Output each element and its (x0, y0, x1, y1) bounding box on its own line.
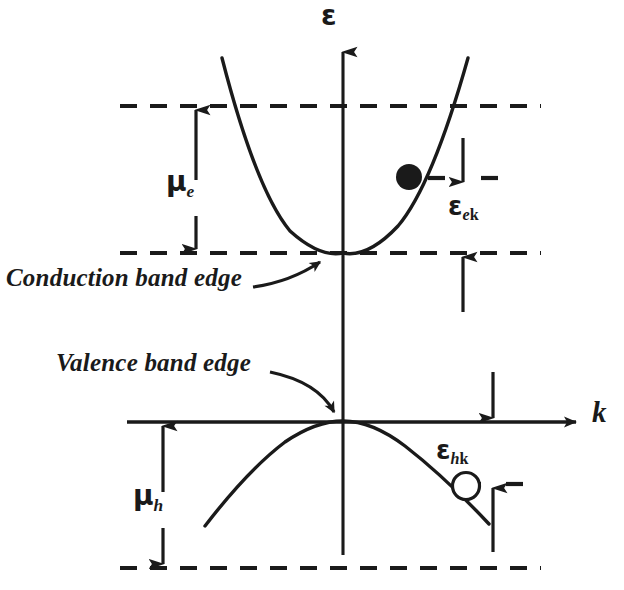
eps-ek-subscript-e: e (462, 206, 469, 223)
conduction-band-curve (222, 58, 468, 254)
mu-h-label: μh (133, 482, 163, 514)
eps-ek-label: εek (448, 193, 479, 223)
electron-marker-icon (396, 164, 422, 190)
hole-marker-icon (453, 473, 480, 500)
mu-e-label: μe (166, 168, 194, 200)
mu-h-symbol: μ (133, 479, 154, 512)
eps-hk-subscript-k: k (459, 450, 468, 467)
mu-e-symbol: μ (166, 165, 187, 198)
eps-hk-symbol: ε (436, 435, 450, 465)
valence-band-edge-caption: Valence band edge (56, 350, 251, 375)
wavevector-axis-label: k (592, 398, 607, 427)
band-diagram-figure: ε k μe μh εek εhk Conduction band edge V… (0, 0, 624, 590)
energy-axis-label: ε (321, 2, 337, 30)
mu-e-subscript: e (187, 182, 195, 201)
conduction-leader-arrow (253, 262, 320, 287)
eps-ek-subscript-k: k (470, 206, 479, 223)
eps-hk-label: εhk (436, 437, 468, 467)
conduction-band-edge-caption: Conduction band edge (6, 265, 242, 290)
mu-h-subscript: h (154, 496, 164, 515)
band-diagram-canvas (0, 0, 624, 590)
valence-leader-arrow (270, 372, 334, 412)
eps-ek-symbol: ε (448, 191, 462, 221)
